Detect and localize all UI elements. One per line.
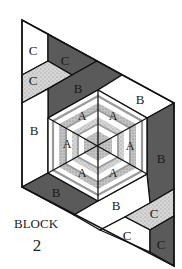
block-title: BLOCK [14,216,59,231]
label-b-top-dark: B [74,81,83,96]
label-a-3: A [63,137,72,151]
label-b-bottom-dark: B [52,185,61,200]
label-c-top-textured: C [29,73,38,88]
piece-b-left-white [22,89,48,187]
label-c-top-white: C [29,43,38,58]
label-a-1: A [78,109,87,123]
label-c-bottom-textured: C [150,206,159,221]
label-a-2: A [109,109,118,123]
label-b-bottom-white: B [112,198,121,213]
block-number: 2 [33,236,42,255]
label-a-5: A [78,166,87,180]
label-a-6: A [109,166,118,180]
label-c-bottom-dark: C [157,237,166,252]
label-c-bottom-white: C [123,228,132,243]
label-c-top-dark: C [61,53,70,68]
label-b-top-white: B [136,92,145,107]
label-b-left-white: B [30,123,39,138]
quilt-block-diagram: C C C B B B B B B C C C A A A A A A BLOC… [0,0,182,269]
label-a-4: A [126,139,135,153]
label-b-right-dark: B [157,151,166,166]
